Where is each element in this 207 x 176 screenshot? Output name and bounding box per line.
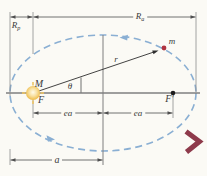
label-orbiting-mass: m bbox=[169, 36, 176, 45]
planet-dot bbox=[162, 46, 167, 51]
label-focus-left: F bbox=[38, 95, 44, 105]
orbit-figure: Rp Ra M F θ r m F′ ea ea a bbox=[0, 0, 207, 176]
label-theta: θ bbox=[68, 81, 72, 90]
orbit-figure-canvas bbox=[0, 0, 207, 176]
label-central-mass: M bbox=[35, 79, 43, 89]
radius-vector-arrowhead bbox=[152, 51, 158, 55]
label-semimajor-axis: a bbox=[52, 155, 62, 165]
label-ea-right: ea bbox=[131, 109, 145, 118]
chevron-decoration-icon bbox=[186, 132, 200, 153]
label-perihelion-distance: Rp bbox=[12, 21, 21, 32]
label-radius-vector: r bbox=[114, 55, 118, 64]
label-focus-right: F′ bbox=[165, 94, 173, 104]
radius-vector bbox=[35, 52, 153, 92]
label-ea-left: ea bbox=[61, 109, 75, 118]
label-aphelion-distance: Ra bbox=[133, 12, 147, 23]
orbit-direction-arrow-bottom-icon bbox=[47, 135, 56, 141]
